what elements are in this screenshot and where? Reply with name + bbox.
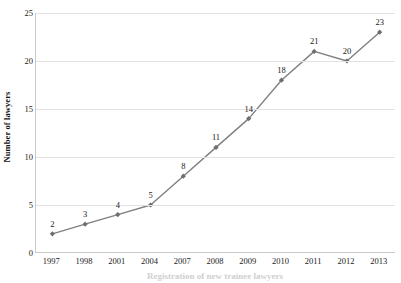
gridline: [36, 13, 395, 14]
data-point-label: 11: [212, 133, 220, 142]
y-axis-tick-label: 5: [17, 201, 33, 210]
y-axis-tick-label: 25: [17, 9, 33, 18]
line-chart: Number of lawyers 0510152025 23458111418…: [0, 0, 401, 283]
x-axis-title: Registration of new trainee lawyers: [35, 271, 395, 283]
x-axis-tick-label: 2001: [108, 256, 125, 266]
y-axis-tick-label: 0: [17, 249, 33, 258]
data-point-label: 4: [116, 201, 120, 210]
data-point-label: 20: [343, 47, 352, 56]
y-axis-tick-label: 10: [17, 153, 33, 162]
data-point-label: 14: [244, 105, 253, 114]
plot-area: 23458111418212023: [35, 13, 395, 253]
x-axis-tick-label: 2004: [141, 256, 158, 266]
x-axis-tick-label: 2013: [370, 256, 387, 266]
data-point-label: 21: [310, 37, 319, 46]
data-point-label: 2: [50, 220, 54, 229]
data-point-marker: [50, 231, 55, 236]
x-axis-tick-label: 2011: [305, 256, 322, 266]
data-point-label: 18: [277, 66, 286, 75]
gridline: [36, 205, 395, 206]
y-axis-title-label: Number of lawyers: [2, 91, 12, 162]
x-axis-tick-label: 2007: [174, 256, 191, 266]
y-axis-title: Number of lawyers: [0, 0, 14, 253]
x-axis-tick-label: 2010: [272, 256, 289, 266]
data-point-marker: [115, 212, 120, 217]
y-axis-tick-labels: 0510152025: [14, 0, 33, 283]
y-axis-tick-label: 20: [17, 57, 33, 66]
x-axis-tick-labels: 1997199820012004200720082009201020112012…: [35, 256, 395, 270]
x-axis-tick-label: 2009: [239, 256, 256, 266]
gridline: [36, 61, 395, 62]
x-axis-tick-label: 1997: [43, 256, 60, 266]
gridline: [36, 157, 395, 158]
x-axis-tick-label: 2008: [207, 256, 224, 266]
gridline: [36, 109, 395, 110]
x-axis-tick-label: 1998: [76, 256, 93, 266]
data-point-label: 3: [83, 210, 87, 219]
x-axis-tick-label: 2012: [337, 256, 354, 266]
x-axis-title-label: Registration of new trainee lawyers: [35, 271, 395, 281]
data-point-label: 8: [181, 162, 185, 171]
y-axis-tick-label: 15: [17, 105, 33, 114]
data-point-marker: [82, 222, 87, 227]
data-point-label: 5: [148, 191, 152, 200]
data-point-label: 23: [375, 18, 384, 27]
